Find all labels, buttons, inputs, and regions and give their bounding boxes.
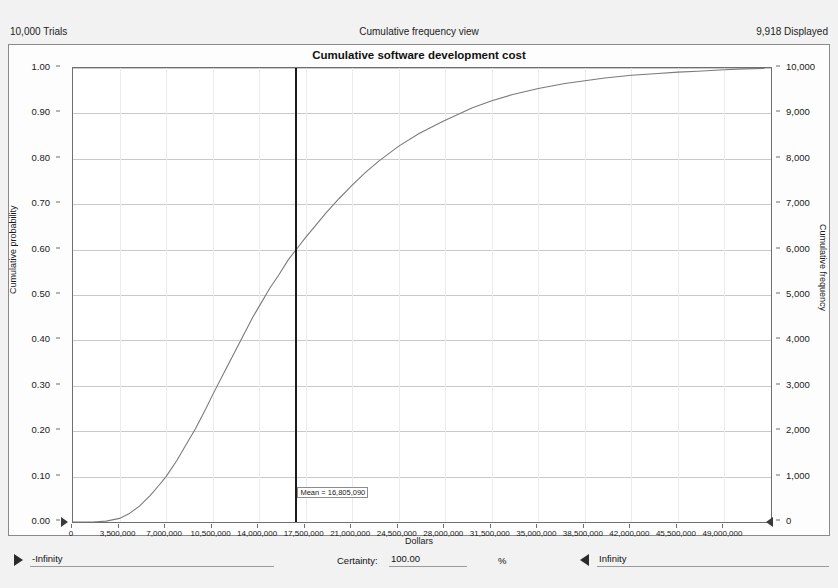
y-axis-right-tick-label: 7,000 xyxy=(786,197,810,208)
y-axis-right-tick-label: 6,000 xyxy=(786,242,810,253)
certainty-input[interactable] xyxy=(389,552,467,567)
forecast-chart-window: 10,000 Trials Cumulative frequency view … xyxy=(0,0,838,588)
y-axis-left-tick-label: 0.30 xyxy=(32,378,51,389)
y-axis-left-tick-mark xyxy=(56,202,60,203)
y-axis-right-tick-mark xyxy=(776,383,780,384)
chart-title: Cumulative software development cost xyxy=(9,49,829,61)
upper-bound-input[interactable] xyxy=(597,552,829,567)
y-axis-right-tick-mark xyxy=(776,111,780,112)
x-axis-right-grabber-icon[interactable] xyxy=(766,517,773,527)
y-axis-left-tick-label: 0.20 xyxy=(32,424,51,435)
displayed-count: 9,918 Displayed xyxy=(756,26,828,37)
y-axis-left-tick-mark xyxy=(56,383,60,384)
certainty-control-bar: Certainty: % xyxy=(0,546,838,588)
x-axis-tick-mark xyxy=(71,524,72,528)
y-axis-left-tick-label: 1.00 xyxy=(32,61,51,72)
x-axis-tick-mark xyxy=(536,524,537,528)
x-axis-tick-mark xyxy=(629,524,630,528)
y-axis-right-tick-mark xyxy=(776,474,780,475)
y-axis-right-tick-label: 10,000 xyxy=(786,61,815,72)
y-axis-left-tick-mark xyxy=(56,520,60,521)
certainty-label: Certainty: xyxy=(337,555,378,566)
y-axis-right-tick-mark xyxy=(776,520,780,521)
y-axis-left-tick-mark xyxy=(56,247,60,248)
y-axis-right-title: Cumulative frequency xyxy=(818,224,828,311)
lower-bound-grabber-icon[interactable] xyxy=(14,554,23,566)
y-axis-right-tick-mark xyxy=(776,247,780,248)
y-axis-left-tick-label: 0.10 xyxy=(32,469,51,480)
x-axis-title: Dollars xyxy=(0,536,838,546)
y-axis-left-tick-mark xyxy=(56,111,60,112)
x-axis-tick-mark xyxy=(490,524,491,528)
y-axis-left-tick-label: 0.60 xyxy=(32,242,51,253)
x-axis-tick-mark xyxy=(350,524,351,528)
chart-frame: Cumulative software development cost Mea… xyxy=(8,44,830,536)
y-axis-right-tick-mark xyxy=(776,338,780,339)
y-axis-right-tick-mark xyxy=(776,202,780,203)
y-axis-right-tick-label: 5,000 xyxy=(786,288,810,299)
x-axis-tick-mark xyxy=(397,524,398,528)
x-axis-tick-mark xyxy=(164,524,165,528)
y-axis-right-tick-mark xyxy=(776,293,780,294)
status-strip: 10,000 Trials Cumulative frequency view … xyxy=(0,26,838,42)
y-axis-left-tick-mark xyxy=(56,429,60,430)
percent-symbol: % xyxy=(498,555,506,566)
mean-value-label: Mean = 16,805,090 xyxy=(297,487,368,498)
y-axis-left-tick-label: 0.50 xyxy=(32,288,51,299)
mean-line[interactable] xyxy=(295,68,297,522)
y-axis-left-title: Cumulative probability xyxy=(8,205,18,294)
lower-bound-input[interactable] xyxy=(30,552,274,567)
y-axis-left-tick-label: 0.40 xyxy=(32,333,51,344)
y-axis-right-tick-label: 9,000 xyxy=(786,106,810,117)
y-axis-left-ticks: 0.000.100.200.300.400.500.600.700.800.90… xyxy=(8,66,60,522)
x-axis-tick-mark xyxy=(257,524,258,528)
y-axis-left-tick-label: 0.80 xyxy=(32,151,51,162)
x-axis-tick-mark xyxy=(443,524,444,528)
y-axis-right-tick-label: 8,000 xyxy=(786,151,810,162)
y-axis-right-tick-label: 1,000 xyxy=(786,469,810,480)
x-axis-tick-mark xyxy=(722,524,723,528)
y-axis-left-tick-label: 0.90 xyxy=(32,106,51,117)
x-axis-tick-mark xyxy=(304,524,305,528)
y-axis-right-tick-mark xyxy=(776,156,780,157)
y-axis-left-tick-label: 0.00 xyxy=(32,515,51,526)
y-axis-right-tick-mark xyxy=(776,429,780,430)
y-axis-right-tick-label: 3,000 xyxy=(786,378,810,389)
y-axis-right-tick-mark xyxy=(776,66,780,67)
y-axis-left-tick-label: 0.70 xyxy=(32,197,51,208)
y-axis-left-tick-mark xyxy=(56,474,60,475)
upper-bound-grabber-icon[interactable] xyxy=(580,554,589,566)
plot-area[interactable]: Mean = 16,805,090 xyxy=(72,67,772,523)
y-axis-left-tick-mark xyxy=(56,338,60,339)
x-axis-left-grabber-icon[interactable] xyxy=(61,517,68,527)
y-axis-right-tick-label: 0 xyxy=(786,515,791,526)
x-axis-tick-mark xyxy=(118,524,119,528)
cumulative-curve xyxy=(73,68,771,522)
x-axis-tick-mark xyxy=(676,524,677,528)
y-axis-left-tick-mark xyxy=(56,293,60,294)
y-axis-left-tick-mark xyxy=(56,66,60,67)
x-axis-tick-mark xyxy=(583,524,584,528)
y-axis-right-tick-label: 4,000 xyxy=(786,333,810,344)
x-axis-tick-mark xyxy=(211,524,212,528)
view-mode-label: Cumulative frequency view xyxy=(0,26,838,37)
y-axis-left-tick-mark xyxy=(56,156,60,157)
y-axis-right-tick-label: 2,000 xyxy=(786,424,810,435)
